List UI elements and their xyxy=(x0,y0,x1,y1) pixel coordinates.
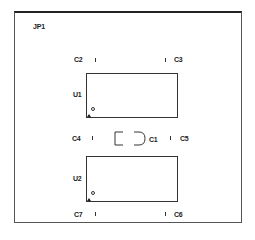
u2-notch-icon xyxy=(87,198,91,201)
u1-pin1-marker-icon xyxy=(91,107,95,111)
u1-label: U1 xyxy=(73,91,82,99)
c3-footprint[interactable] xyxy=(165,58,166,62)
c3-label: C3 xyxy=(174,56,183,64)
u2-pin1-marker-icon xyxy=(91,191,95,195)
u2-chip-footprint[interactable] xyxy=(86,156,178,202)
board-label: JP1 xyxy=(33,23,45,31)
c5-label: C5 xyxy=(180,135,189,143)
c4-footprint[interactable] xyxy=(92,136,93,140)
c5-footprint[interactable] xyxy=(170,136,171,140)
u1-notch-icon xyxy=(87,114,91,117)
c2-label: C2 xyxy=(74,56,83,64)
u2-label: U2 xyxy=(73,175,82,183)
c1-footprint[interactable] xyxy=(114,131,148,147)
c7-label: C7 xyxy=(74,211,83,219)
c6-label: C6 xyxy=(174,211,183,219)
c7-footprint[interactable] xyxy=(95,212,96,216)
u1-chip-footprint[interactable] xyxy=(86,73,178,118)
c2-footprint[interactable] xyxy=(95,58,96,62)
c1-label: C1 xyxy=(149,136,158,144)
c4-label: C4 xyxy=(72,135,81,143)
c6-footprint[interactable] xyxy=(165,212,166,216)
